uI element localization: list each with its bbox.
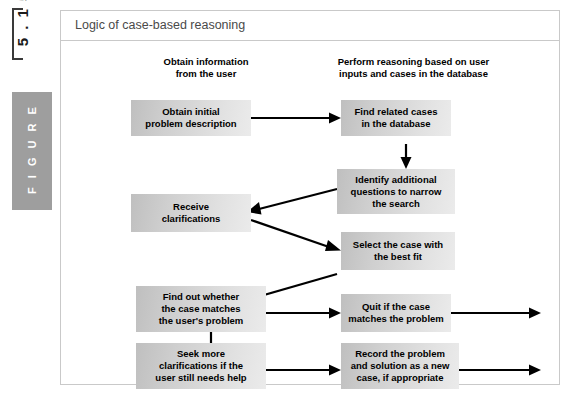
node-line-3: the search (372, 198, 420, 209)
connector-receive-to-select (251, 220, 329, 247)
figure-number: 5 . 1 5 (14, 0, 31, 50)
figure-label-text: F I G U R E (26, 102, 38, 196)
node-line-3: the user's problem (159, 315, 244, 326)
node-record-the-problem[interactable]: Record the problem and solution as a new… (341, 343, 459, 389)
arrowhead-record-exit (529, 365, 541, 376)
node-line-1: Find out whether (163, 291, 240, 302)
figure-label-block: F I G U R E (12, 92, 52, 210)
node-line-2: questions to narrow (351, 186, 442, 197)
node-line-3: user still needs help (155, 372, 246, 383)
node-seek-more-clarifications[interactable]: Seek more clarifications if the user sti… (136, 343, 266, 389)
arrowhead-findout-to-quit (329, 308, 341, 319)
figure-marginalia: 5 . 1 5 F I G U R E (0, 0, 56, 397)
node-receive-clarifications[interactable]: Receive clarifications (131, 194, 251, 232)
node-line-2: in the database (361, 118, 430, 129)
figure-title: Logic of case-based reasoning (75, 18, 245, 32)
node-quit-if-case-matches[interactable]: Quit if the case matches the problem (341, 294, 451, 332)
node-find-related-cases[interactable]: Find related cases in the database (341, 100, 451, 136)
figure-frame: Logic of case-based reasoning Obtain inf… (60, 10, 560, 385)
node-line-1: Record the problem (355, 348, 445, 359)
node-line-2: clarifications (162, 213, 221, 224)
node-line-1: Seek more (177, 348, 225, 359)
node-line-2: problem description (145, 118, 236, 129)
node-line-2: the case matches (161, 303, 240, 314)
figure-titlebar: Logic of case-based reasoning (61, 11, 559, 41)
arrowhead-seek-to-record (329, 365, 341, 376)
connector-identify-to-receive (259, 189, 337, 209)
node-line-1: Identify additional (355, 174, 436, 185)
node-identify-additional-questions[interactable]: Identify additional questions to narrow … (337, 169, 455, 214)
node-line-1: Receive (173, 201, 209, 212)
node-line-1: Find related cases (355, 106, 438, 117)
node-find-out-whether-case-matches[interactable]: Find out whether the case matches the us… (136, 286, 266, 332)
figure-canvas: Obtain information from the user Perform… (61, 42, 559, 385)
node-line-2: the best fit (374, 251, 422, 262)
arrowhead-find-to-identify (401, 157, 412, 169)
arrowhead-obtain-to-find (329, 113, 341, 124)
node-line-3: case, if appropriate (356, 372, 443, 383)
node-line-2: matches the problem (348, 313, 444, 324)
arrowhead-receive-to-select (325, 240, 341, 251)
node-select-the-case[interactable]: Select the case with the best fit (341, 232, 455, 270)
node-obtain-initial-problem-description[interactable]: Obtain initial problem description (131, 100, 251, 136)
arrowhead-quit-exit (529, 308, 541, 319)
node-line-1: Obtain initial (162, 106, 220, 117)
node-line-2: clarifications if the (159, 360, 243, 371)
node-line-1: Quit if the case (362, 301, 430, 312)
node-line-2: and solution as a new (351, 360, 450, 371)
node-line-1: Select the case with (353, 239, 443, 250)
